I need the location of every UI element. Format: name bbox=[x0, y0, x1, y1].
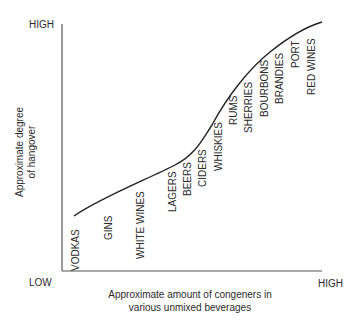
beverage-label-port: PORT bbox=[291, 40, 301, 68]
beverage-label-lagers: LAGERS bbox=[168, 171, 178, 212]
x-axis-title-line1: Approximate amount of congeners in bbox=[90, 288, 290, 301]
x-axis-title: Approximate amount of congeners in vario… bbox=[90, 288, 290, 314]
x-axis-high-label: HIGH bbox=[318, 279, 343, 289]
y-axis-title-line1: Approximate degree bbox=[14, 97, 26, 207]
beverage-label-bourbons: BOURBONS bbox=[260, 60, 270, 117]
y-axis-title-line2: of hangover bbox=[26, 97, 38, 207]
beverage-label-rums: RUMS bbox=[229, 96, 239, 125]
beverage-label-brandies: BRANDIES bbox=[275, 53, 285, 104]
beverage-label-ciders: CIDERS bbox=[198, 149, 208, 187]
x-axis-low-label: LOW bbox=[29, 278, 52, 288]
beverage-label-gins: GINS bbox=[104, 216, 114, 240]
beverage-label-vodkas: VODKAS bbox=[71, 229, 81, 271]
y-axis-title: Approximate degree of hangover bbox=[14, 97, 38, 207]
beverage-label-white-wines: WHITE WINES bbox=[136, 191, 146, 259]
beverage-label-beers: BEERS bbox=[183, 162, 193, 196]
x-axis-title-line2: various unmixed beverages bbox=[90, 301, 290, 314]
y-axis-high-label: HIGH bbox=[29, 20, 54, 30]
beverage-label-whiskies: WHISKIES bbox=[214, 122, 224, 171]
beverage-label-red-wines: RED WINES bbox=[307, 38, 317, 95]
beverage-label-sherries: SHERRIES bbox=[244, 82, 254, 133]
